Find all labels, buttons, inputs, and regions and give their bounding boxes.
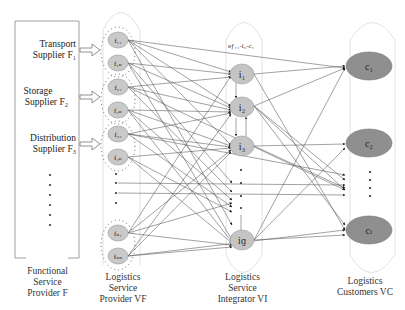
f-node-label: f₃₁ (114, 131, 121, 139)
c-node-label: cₗ (366, 225, 373, 236)
supplier-storage: Storage Supplier F₂ (8, 86, 68, 108)
label-line: Service (10, 277, 85, 288)
label-line: Integrator VI (205, 294, 280, 305)
integrator-label: Logistics Service Integrator VI (205, 272, 280, 305)
customer-ellipsis (369, 171, 371, 197)
supplier-label-line2: Supplier F₂ (8, 97, 68, 108)
i-node-label: i₂ (239, 102, 245, 113)
f-node-label: fₙ₁ (114, 230, 122, 238)
f-node-label: f₁₁ (114, 37, 121, 45)
label-line: Service (205, 283, 280, 294)
f-node-label: fₙₙ (114, 253, 122, 261)
label-line: Provider VF (88, 294, 158, 305)
label-line: Logistics (205, 272, 280, 283)
f-node-label: f₁ₙ (114, 60, 122, 68)
supplier-label-line2: Supplier F₃ (8, 144, 76, 155)
ellipsis-dots-f (49, 174, 51, 226)
supplier-label-line1: Transport (8, 39, 76, 50)
integrator-ellipsis (240, 169, 242, 209)
c-node-label: c₁ (365, 61, 373, 72)
i-node-label: i₃ (239, 141, 245, 152)
supplier-label-line2: Supplier F₁ (8, 50, 76, 61)
customers-label: Logistics Customers VC (325, 276, 405, 298)
label-line: Logistics (88, 272, 158, 283)
label-line: Provider F (10, 288, 85, 299)
supplier-transport: Transport Supplier F₁ (8, 39, 76, 61)
f-node-label: f₃ₙ (114, 154, 122, 162)
label-line: Functional (10, 266, 85, 277)
c-node-label: c₂ (365, 138, 373, 149)
supplier-arrows (80, 44, 100, 150)
functional-provider-label: Functional Service Provider F (10, 266, 85, 299)
f-node-label: f₂₁ (114, 84, 121, 92)
i-node-label: i₁ (239, 69, 245, 80)
i-node-label: iɡ (238, 235, 246, 246)
edge-label: eƒ₁₁-i₀-c₁ (228, 42, 254, 50)
supplier-distribution: Distribution Supplier F₃ (8, 133, 76, 155)
supplier-label-line1: Storage (8, 86, 68, 97)
supplier-label-line1: Distribution (8, 133, 76, 144)
label-line: Logistics (325, 276, 405, 287)
label-line: Service (88, 283, 158, 294)
service-provider-label: Logistics Service Provider VF (88, 272, 158, 305)
label-line: Customers VC (325, 287, 405, 298)
f-node-label: f₂ₙ (114, 107, 122, 115)
ellipsis-dots-vf (115, 173, 117, 204)
